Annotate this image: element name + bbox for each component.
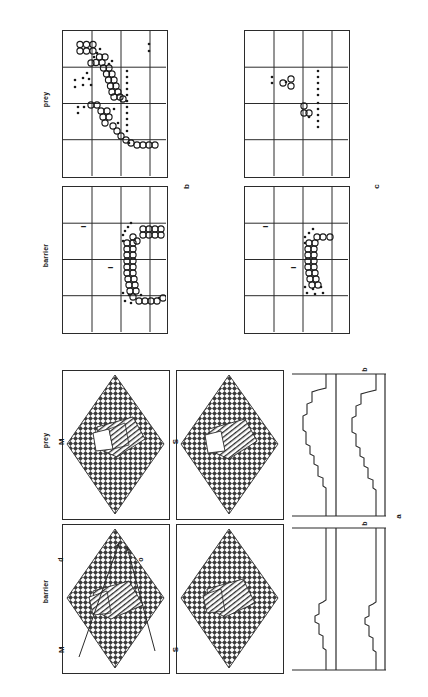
grid-lines [245, 187, 348, 332]
surface-panel-m-prey [62, 370, 170, 520]
scatter-b-barrier-svg [63, 187, 166, 332]
trace-line-2 [365, 528, 376, 670]
surface-panel-s-prey [176, 370, 284, 520]
trace-panel-prey [290, 370, 390, 520]
open-circle-markers [77, 41, 158, 148]
condition-label-s-prey: S [171, 419, 180, 465]
tick-mark-lower-b: I [106, 263, 115, 273]
column-header-barrier-b: barrier [42, 227, 49, 285]
scatter-b-prey-svg [63, 31, 166, 176]
figure-root: prey [0, 0, 428, 697]
trace-label-b-prey: b [361, 364, 368, 376]
open-circle-markers [305, 234, 333, 288]
panel-letter-a: a [394, 514, 403, 518]
arrow-label-o: o [137, 554, 144, 566]
panel-letter-c: c [372, 184, 381, 188]
open-circle-markers [124, 226, 166, 304]
condition-label-m-prey: M [57, 419, 66, 465]
trace-line-2 [352, 374, 376, 516]
surface-m-barrier-svg [63, 525, 168, 672]
trace-frame [292, 374, 386, 516]
condition-label-s-barrier: S [171, 627, 180, 673]
grid-lines [63, 187, 166, 332]
scatter-panel-b-prey [62, 30, 168, 178]
surface-s-barrier-svg [177, 525, 282, 672]
trace-frame [292, 528, 386, 670]
tick-mark-upper-c: I [261, 222, 270, 232]
trace-barrier-svg [290, 524, 390, 674]
condition-label-m-barrier: M [57, 627, 66, 673]
column-header-prey-b: prey [42, 77, 49, 123]
column-header-prey-a: prey [42, 418, 49, 464]
grid-lines [63, 31, 166, 176]
trace-line-1 [303, 374, 326, 516]
surface-m-prey-svg [63, 371, 168, 518]
scatter-c-prey-svg [245, 31, 348, 176]
scatter-panel-c-barrier [244, 186, 350, 334]
trace-panel-barrier [290, 524, 390, 674]
tick-mark-upper-b: I [79, 222, 88, 232]
tick-mark-lower-c: I [289, 263, 298, 273]
arrow-label-d: d [57, 554, 64, 566]
surface-s-prey-svg [177, 371, 282, 518]
grid-lines [245, 31, 348, 176]
panel-letter-b: b [182, 184, 191, 189]
trace-label-b-barrier: b [361, 518, 368, 530]
peak-shadow [205, 431, 225, 453]
surface-panel-m-barrier [62, 524, 170, 674]
small-dot-markers [271, 70, 320, 129]
trace-line-1 [315, 528, 326, 670]
column-header-barrier-a: barrier [42, 563, 49, 621]
trace-prey-svg [290, 370, 390, 520]
scatter-c-barrier-svg [245, 187, 348, 332]
scatter-panel-b-barrier [62, 186, 168, 334]
scatter-panel-c-prey [244, 30, 350, 178]
surface-panel-s-barrier [176, 524, 284, 674]
